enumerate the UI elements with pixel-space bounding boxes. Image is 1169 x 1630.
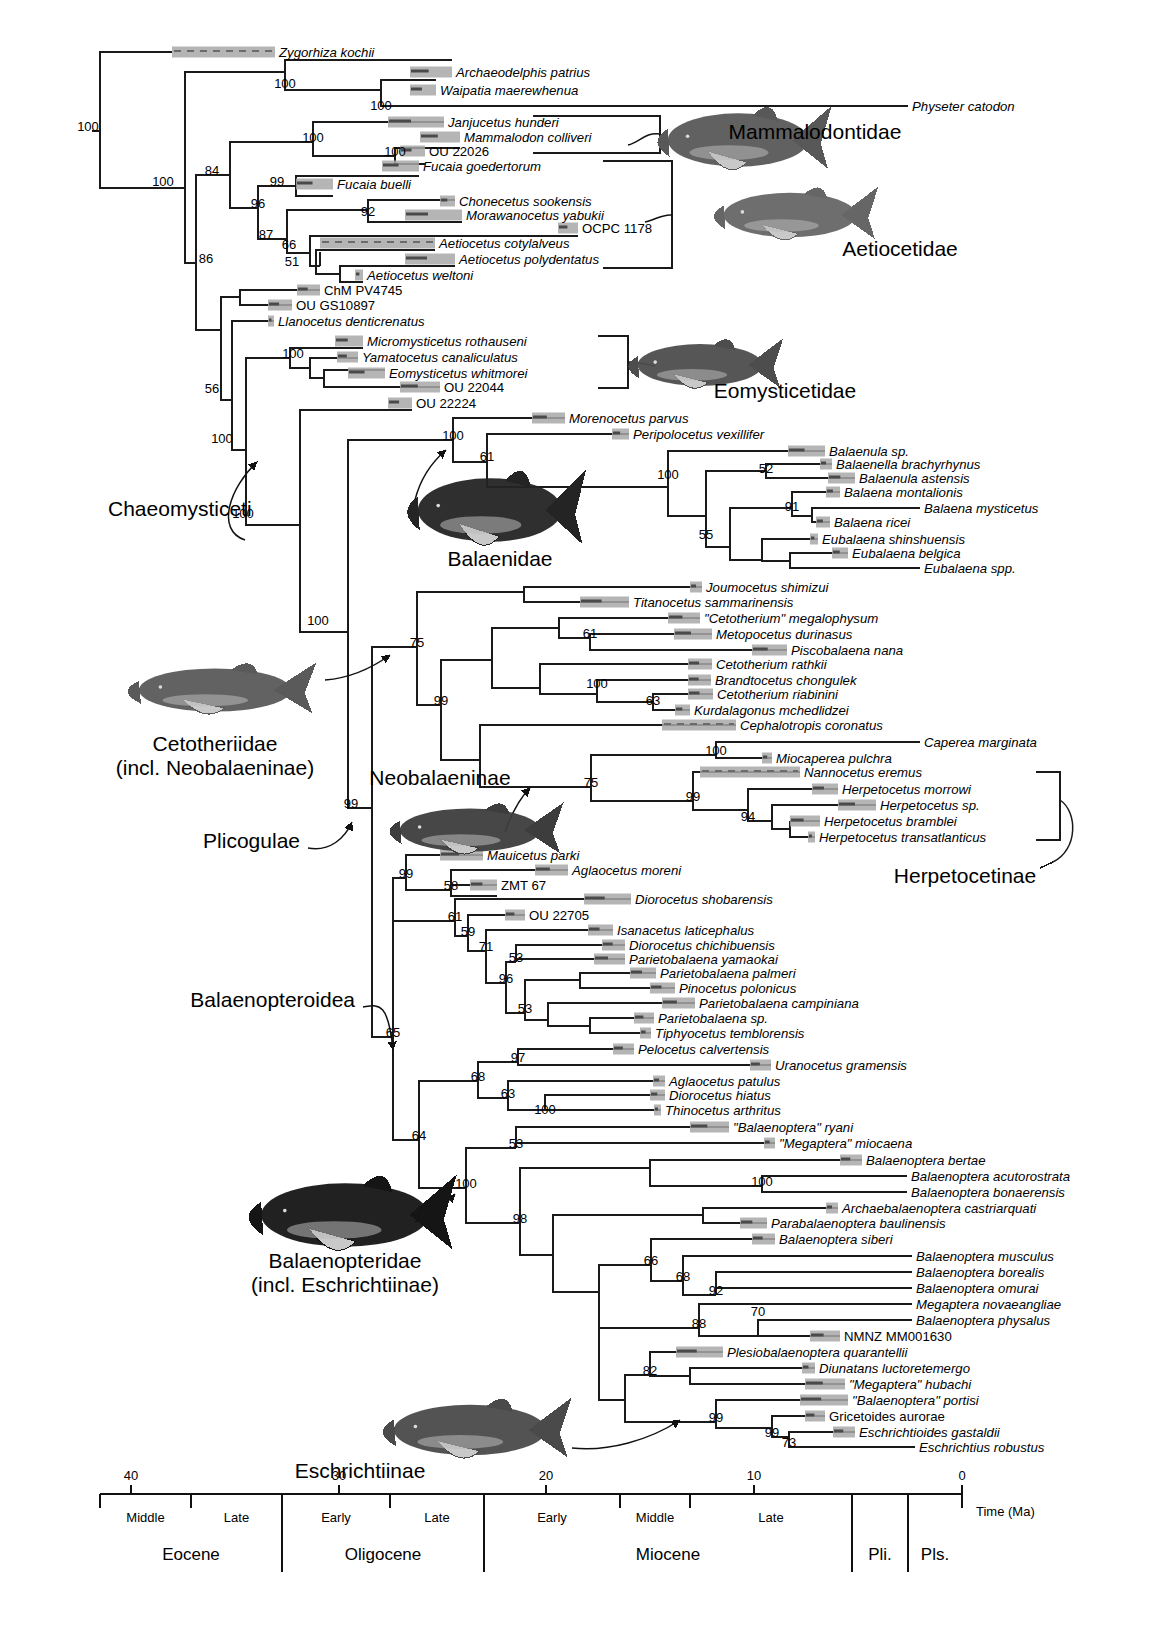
range-bar — [676, 1347, 723, 1358]
range-bar — [388, 117, 444, 128]
taxon-label: OCPC 1178 — [582, 221, 652, 236]
support-value: 100 — [302, 130, 324, 145]
taxon-label: Gricetoides aurorae — [829, 1409, 945, 1424]
range-bar — [588, 925, 613, 936]
taxon-label: Balaenoptera musculus — [916, 1249, 1054, 1264]
taxon-label: Fucaia goedertorum — [423, 159, 541, 174]
support-value: 100 — [77, 119, 99, 134]
range-bar — [296, 179, 333, 190]
timescale-epoch-label: Early — [321, 1510, 351, 1525]
range-bar — [802, 1363, 815, 1374]
support-value: 100 — [442, 428, 464, 443]
support-value: 100 — [282, 346, 304, 361]
support-value: 100 — [211, 431, 233, 446]
timescale-tick-label: 40 — [124, 1468, 138, 1483]
taxon-label: OU 22044 — [444, 380, 504, 395]
taxon-label: Megaptera novaeangliae — [916, 1297, 1061, 1312]
taxon-label: Balaena montalionis — [844, 485, 963, 500]
range-bar — [688, 659, 712, 670]
support-value: 91 — [785, 499, 799, 514]
range-bar — [752, 645, 787, 656]
range-bar — [405, 254, 455, 265]
timescale-period-label: Eocene — [162, 1545, 220, 1564]
taxon-label: Diorocetus hiatus — [669, 1088, 771, 1103]
range-bar — [420, 132, 460, 143]
support-value: 53 — [509, 950, 523, 965]
taxon-label: Cetotherium rathkii — [716, 657, 828, 672]
range-bar — [532, 413, 565, 424]
range-bar — [410, 67, 452, 78]
taxon-label: Peripolocetus vexillifer — [633, 427, 765, 442]
range-bar — [348, 368, 385, 379]
taxon-label: Parietobalaena sp. — [658, 1011, 768, 1026]
taxon-label: Chonecetus sookensis — [459, 194, 592, 209]
support-value: 53 — [509, 1136, 523, 1151]
taxon-label: Balaenoptera bertae — [866, 1153, 986, 1168]
support-value: 66 — [282, 237, 296, 252]
taxon-label: Parabalaenoptera baulinensis — [771, 1216, 946, 1231]
range-bar — [602, 940, 625, 951]
taxon-label: Morenocetus parvus — [569, 411, 689, 426]
taxon-label: Herpetocetus morrowi — [842, 782, 972, 797]
clade-label-balaenopteroidea: Balaenopteroidea — [190, 988, 355, 1011]
support-value: 84 — [205, 163, 219, 178]
bracket-herpetocetinae — [1036, 772, 1060, 840]
range-bar — [832, 548, 848, 559]
taxon-label: Balaena mysticetus — [924, 501, 1039, 516]
clade-label-herpetocetinae: Herpetocetinae — [894, 864, 1036, 887]
taxon-label: Tiphyocetus temblorensis — [655, 1026, 805, 1041]
range-bar — [688, 689, 713, 700]
range-bar — [810, 1331, 840, 1342]
range-bar — [668, 613, 700, 624]
range-bar — [740, 1218, 767, 1229]
range-bar — [355, 270, 363, 281]
clade-label-balaenopteridae-sub: (incl. Eschrichtiinae) — [251, 1273, 439, 1296]
range-bar — [594, 954, 625, 965]
range-bar — [833, 1427, 855, 1438]
range-bar — [535, 865, 568, 876]
support-value: 99 — [344, 796, 358, 811]
support-value: 63 — [646, 693, 660, 708]
taxon-label: Balaena ricei — [834, 515, 911, 530]
taxon-label: Micromysticetus rothauseni — [367, 334, 528, 349]
range-bar — [650, 983, 675, 994]
range-bar — [805, 1411, 825, 1422]
cetotheriid-whale — [128, 662, 317, 714]
range-bar — [640, 1028, 651, 1039]
taxon-label: "Cetotherium" megalophysum — [704, 611, 878, 626]
support-value: 75 — [410, 635, 424, 650]
taxon-label: Uranocetus gramensis — [775, 1058, 907, 1073]
timescale-tick-label: 10 — [747, 1468, 761, 1483]
bracket-herpetocetinae-curve — [1053, 800, 1073, 862]
support-value: 92 — [709, 1283, 723, 1298]
taxon-label: Yamatocetus canaliculatus — [362, 350, 518, 365]
timescale-epoch-label: Late — [424, 1510, 449, 1525]
taxon-label: Aetiocetus polydentatus — [458, 252, 599, 267]
support-value: 71 — [479, 939, 493, 954]
support-value: 99 — [765, 1425, 779, 1440]
clade-label-aetiocetidae: Aetiocetidae — [842, 237, 958, 260]
taxon-label: OU GS10897 — [296, 298, 375, 313]
taxon-label: Eubalaena shinshuensis — [822, 532, 965, 547]
range-bar — [808, 832, 815, 843]
support-value: 100 — [384, 144, 406, 159]
range-bar — [816, 517, 830, 528]
figure-root: Zygorhiza kochiiArchaeodelphis patriusWa… — [0, 0, 1169, 1630]
support-value: 70 — [751, 1304, 765, 1319]
range-bar — [320, 238, 435, 249]
support-value: 99 — [686, 789, 700, 804]
clade-label-mammalodontidae: Mammalodontidae — [729, 120, 902, 143]
range-bar — [764, 1138, 775, 1149]
clade-label-eschrichtiinae: Eschrichtiinae — [295, 1459, 426, 1482]
bracket-aetiocetidae — [603, 161, 672, 268]
support-value: 98 — [513, 1211, 527, 1226]
taxon-label: Cetotherium riabinini — [717, 687, 839, 702]
support-value: 68 — [471, 1069, 485, 1084]
taxon-label: Eomysticetus whitmorei — [389, 366, 529, 381]
taxon-label: Titanocetus sammarinensis — [633, 595, 794, 610]
range-bar — [505, 910, 525, 921]
taxon-label: Eschrichtioides gastaldii — [859, 1425, 1001, 1440]
support-value: 87 — [259, 227, 273, 242]
support-value: 52 — [759, 461, 773, 476]
taxon-label: Zygorhiza kochii — [278, 45, 375, 60]
